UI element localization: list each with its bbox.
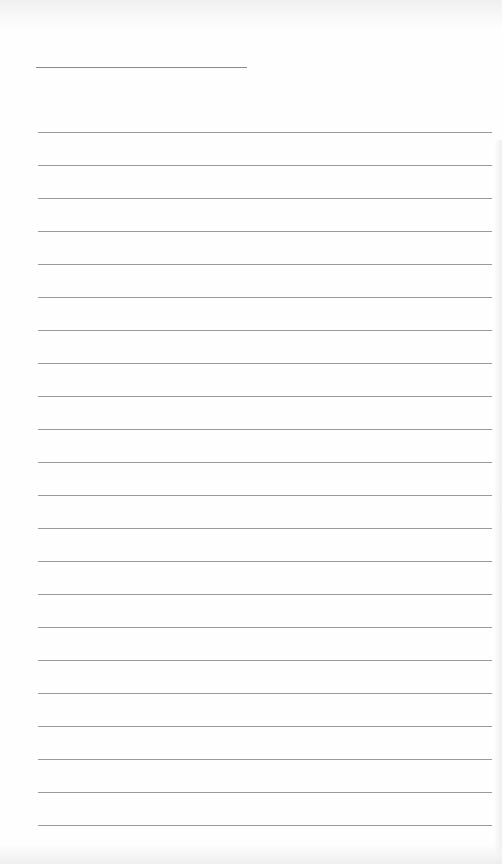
ruled-line <box>38 792 492 793</box>
ruled-line <box>38 693 492 694</box>
ruled-line <box>38 462 492 463</box>
ruled-line <box>38 429 492 430</box>
ruled-line <box>38 495 492 496</box>
ruled-line <box>38 297 492 298</box>
ruled-line <box>38 528 492 529</box>
ruled-line <box>38 231 492 232</box>
ruled-line <box>38 165 492 166</box>
ruled-line <box>38 198 492 199</box>
ruled-line <box>38 825 492 826</box>
ruled-line <box>38 330 492 331</box>
bottom-edge-shading <box>0 844 502 864</box>
lined-paper-page <box>0 0 502 864</box>
ruled-line <box>38 132 492 133</box>
ruled-line <box>38 264 492 265</box>
ruled-line <box>38 396 492 397</box>
ruled-line <box>38 726 492 727</box>
ruled-line <box>38 660 492 661</box>
ruled-line <box>38 759 492 760</box>
right-edge-shading <box>494 140 502 864</box>
ruled-line <box>38 594 492 595</box>
ruled-line <box>38 363 492 364</box>
top-bleed-through-shading <box>0 0 502 30</box>
ruled-line <box>38 627 492 628</box>
ruled-line <box>38 561 492 562</box>
header-name-line <box>36 67 247 68</box>
